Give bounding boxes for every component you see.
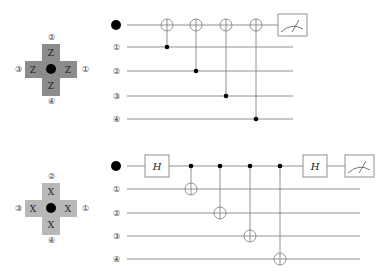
- plaquette-label-right: ①: [82, 204, 89, 213]
- ancilla-wire-label-icon: [111, 161, 121, 171]
- plaquette-op-right: X: [65, 204, 72, 214]
- wire-label-1: ①: [113, 185, 120, 194]
- hadamard-gate-2: H: [303, 155, 327, 177]
- cnot-2: [214, 164, 226, 219]
- plaquette-label-top: ②: [48, 172, 55, 181]
- plaquette-label-bottom: ④: [48, 236, 55, 245]
- plaquette-op-left: Z: [30, 65, 36, 75]
- cnot-1: [185, 164, 197, 195]
- cnot-3: [220, 19, 232, 98]
- z-wire-labels: ① ② ③ ④: [111, 20, 121, 124]
- wire-label-3: ③: [113, 232, 120, 241]
- wire-label-2: ②: [113, 67, 120, 76]
- plaquette-op-right: Z: [65, 65, 71, 75]
- x-cnot-gates: [185, 164, 286, 265]
- wire-label-4: ④: [113, 255, 120, 264]
- wire-label-4: ④: [113, 115, 120, 124]
- plaquette-label-left: ③: [15, 65, 22, 74]
- z-stabilizer-panel: Z Z Z Z ② ④ ③ ① ① ② ③ ④: [0, 0, 385, 139]
- cnot-2: [190, 19, 202, 73]
- measurement-meter-icon: [345, 155, 374, 177]
- svg-text:H: H: [152, 161, 162, 172]
- cnot-1: [161, 19, 173, 49]
- cnot-3: [244, 164, 256, 242]
- z-plaquette: Z Z Z Z ② ④ ③ ①: [15, 33, 89, 106]
- plaquette-op-bottom: X: [48, 220, 55, 230]
- plaquette-label-left: ③: [15, 204, 22, 213]
- z-wires: [127, 25, 293, 119]
- measurement-meter-icon: [278, 14, 307, 36]
- plaquette-op-top: Z: [48, 48, 54, 58]
- x-stabilizer-panel: X X X X ② ④ ③ ① ① ② ③ ④ H: [0, 139, 385, 278]
- svg-text:H: H: [310, 161, 320, 172]
- ancilla-qubit-icon: [46, 203, 56, 213]
- plaquette-label-bottom: ④: [48, 97, 55, 106]
- x-plaquette: X X X X ② ④ ③ ①: [15, 172, 89, 245]
- ancilla-wire-label-icon: [111, 20, 121, 30]
- plaquette-op-top: X: [48, 187, 55, 197]
- wire-label-1: ①: [113, 43, 120, 52]
- x-wires: [127, 166, 360, 259]
- cnot-4: [250, 19, 262, 121]
- z-cnot-gates: [161, 19, 262, 121]
- wire-label-3: ③: [113, 92, 120, 101]
- x-stabilizer-diagram: X X X X ② ④ ③ ① ① ② ③ ④ H: [0, 139, 385, 278]
- plaquette-label-right: ①: [82, 65, 89, 74]
- x-wire-labels: ① ② ③ ④: [111, 161, 121, 264]
- cnot-4: [274, 164, 286, 265]
- plaquette-label-top: ②: [48, 33, 55, 42]
- z-stabilizer-diagram: Z Z Z Z ② ④ ③ ① ① ② ③ ④: [0, 0, 385, 139]
- ancilla-qubit-icon: [46, 64, 56, 74]
- wire-label-2: ②: [113, 209, 120, 218]
- plaquette-op-left: X: [30, 204, 37, 214]
- hadamard-gate-1: H: [145, 155, 169, 177]
- plaquette-op-bottom: Z: [48, 81, 54, 91]
